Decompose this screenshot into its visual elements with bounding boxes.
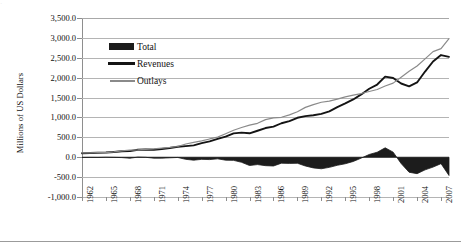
chart-legend: Total Revenues Outlays <box>108 38 203 89</box>
x-axis-tick-label: 1971 <box>158 186 167 203</box>
x-axis-tick-mark <box>273 197 274 201</box>
legend-label-total: Total <box>137 42 156 52</box>
x-axis-tick-label: 1998 <box>373 186 382 203</box>
y-axis-tick-mark <box>77 58 82 59</box>
x-axis-tick-label: 1992 <box>325 186 334 203</box>
x-axis-tick-mark <box>130 197 131 201</box>
x-axis-tick-label: 1989 <box>301 186 310 203</box>
x-axis-tick-mark <box>202 197 203 201</box>
x-axis-tick-mark <box>369 197 370 201</box>
x-axis-tick-mark <box>321 197 322 201</box>
x-axis-tick-mark <box>154 197 155 201</box>
x-axis-tick-mark <box>441 197 442 201</box>
legend-label-revenues: Revenues <box>137 59 174 69</box>
x-axis-tick-label: 2001 <box>397 186 406 203</box>
x-axis-tick-label: 1995 <box>349 186 358 203</box>
x-axis-tick-mark <box>226 197 227 201</box>
x-axis-tick-mark <box>297 197 298 201</box>
y-axis-tick-mark <box>77 78 82 79</box>
legend-swatch-outlays-icon <box>108 75 135 86</box>
chart-screenshot: · Millions of US Dollars 3,500.03,000.02… <box>0 0 461 250</box>
x-axis-tick-label: 1968 <box>134 186 143 203</box>
y-axis-tick-mark <box>77 117 82 118</box>
x-axis-tick-label: 1962 <box>86 186 95 203</box>
y-axis-tick-mark <box>77 197 82 198</box>
x-axis-tick-label: 1977 <box>206 186 215 203</box>
legend-label-outlays: Outlays <box>137 76 167 86</box>
legend-item-revenues: Revenues <box>108 55 203 72</box>
x-axis-tick-label: 2004 <box>421 186 430 203</box>
y-axis-tick-mark <box>77 137 82 138</box>
legend-swatch-revenues-icon <box>108 58 135 69</box>
x-axis-tick-label: 1986 <box>277 186 286 203</box>
y-axis-tick-mark <box>77 98 82 99</box>
y-axis-tick-mark <box>77 177 82 178</box>
x-axis-tick-label: 1965 <box>110 186 119 203</box>
y-axis-tick-mark <box>77 18 82 19</box>
y-axis-tick-mark <box>77 38 82 39</box>
figure-budget-revenues-outlays: Millions of US Dollars 3,500.03,000.02,5… <box>0 0 461 241</box>
x-axis-tick-mark <box>250 197 251 201</box>
x-axis-tick-label: 1983 <box>254 186 263 203</box>
x-axis-tick-label: 2007 <box>445 186 454 203</box>
x-axis-tick-mark <box>345 197 346 201</box>
x-axis-tick-mark <box>106 197 107 201</box>
y-axis-tick-mark <box>77 157 82 158</box>
legend-item-outlays: Outlays <box>108 72 203 89</box>
x-axis-tick-mark <box>82 197 83 201</box>
legend-swatch-total-icon <box>108 41 135 52</box>
x-axis-tick-mark <box>393 197 394 201</box>
legend-item-total: Total <box>108 38 203 55</box>
x-axis-tick-label: 1974 <box>182 186 191 203</box>
x-axis-tick-labels: 1962196519681971197419771980198319861989… <box>0 0 461 250</box>
page-bottom-rule <box>0 241 461 242</box>
x-axis-tick-mark <box>417 197 418 201</box>
x-axis-tick-mark <box>178 197 179 201</box>
x-axis-tick-label: 1980 <box>230 186 239 203</box>
